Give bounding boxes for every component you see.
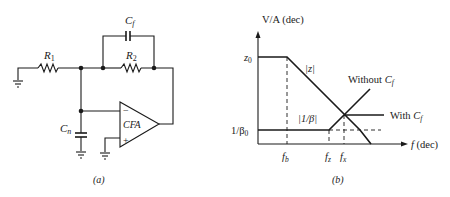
label-with-cf: With Cf xyxy=(390,110,423,123)
wire-cf-right xyxy=(130,36,154,68)
caption-a: (a) xyxy=(93,174,105,186)
y-axis-label: V/A (dec) xyxy=(262,14,304,26)
ground-symbol-left xyxy=(13,81,23,87)
label-z: |z| xyxy=(305,63,315,74)
cfa-label: CFA xyxy=(123,119,141,130)
curve-without-cf xyxy=(344,89,370,115)
resistor-r1 xyxy=(38,64,58,72)
figure: R1 R2 Cf Cn − + CFA xyxy=(0,0,450,197)
figure-canvas: R1 R2 Cf Cn − + CFA xyxy=(0,0,450,197)
ground-symbol-plus xyxy=(100,153,110,159)
wire-output-feedback xyxy=(141,68,173,124)
inverting-input-sign: − xyxy=(123,105,129,116)
x-tick-fb: fb xyxy=(282,151,289,164)
y-tick-inv-beta0: 1/β0 xyxy=(231,125,249,138)
r2-label: R2 xyxy=(125,49,137,63)
node-cf-left xyxy=(101,66,106,71)
resistor-r2 xyxy=(121,64,141,72)
x-axis-label: f (dec) xyxy=(411,139,439,151)
y-axis-arrow-icon xyxy=(256,31,261,38)
wire-ground-r1 xyxy=(18,68,38,80)
caption-b: (b) xyxy=(332,174,344,186)
plot-b: V/A (dec) f (dec) z0 1/β0 fb fz fx |z| |… xyxy=(231,14,439,186)
x-axis-arrow-icon xyxy=(401,142,408,147)
x-tick-fx: fx xyxy=(340,151,347,164)
ground-symbol-cn xyxy=(76,152,86,158)
label-inv-beta: |1/β| xyxy=(298,113,317,124)
label-without-cf: Without Cf xyxy=(348,74,395,87)
r1-label: R1 xyxy=(43,49,55,63)
wire-cf-left xyxy=(103,36,126,68)
cn-label: Cn xyxy=(60,122,71,136)
y-tick-z0: z0 xyxy=(243,52,252,65)
node-cf-right xyxy=(152,66,157,71)
circuit-a: R1 R2 Cf Cn − + CFA xyxy=(13,14,173,186)
x-tick-fz: fz xyxy=(325,151,331,164)
wire-noninverting-ground xyxy=(105,138,120,152)
noninverting-input-sign: + xyxy=(123,135,129,146)
cf-label: Cf xyxy=(125,14,136,28)
